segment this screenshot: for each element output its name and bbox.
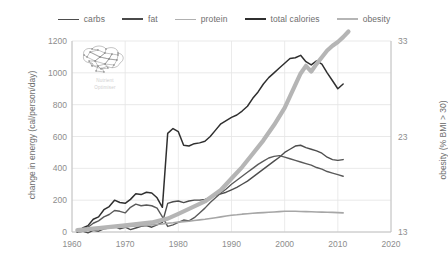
- plot-area: [0, 0, 448, 269]
- chart-container: carbsfatproteintotal caloriesobesity cha…: [0, 0, 448, 269]
